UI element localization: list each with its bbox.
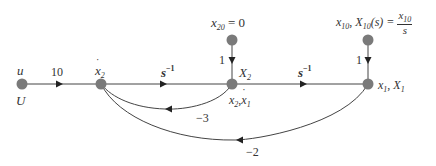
node-u: [17, 79, 28, 90]
arrow-x2dot-to-X2: [160, 81, 167, 88]
gain-minus-3: −3: [196, 112, 209, 124]
gain-minus-2: −2: [246, 146, 259, 158]
arrow-feedback-minus3: [165, 106, 172, 113]
label-x2dot: x·2: [95, 64, 105, 80]
arrow-feedback-minus2: [236, 137, 243, 144]
label-U: U: [16, 94, 25, 107]
gain-s-inverse-1: s−1: [161, 65, 175, 79]
gain-10: 10: [51, 66, 63, 78]
gain-1-x20: 1: [219, 54, 225, 66]
arrow-x20-to-X2: [229, 57, 236, 64]
gain-1-x10: 1: [356, 54, 362, 66]
node-x10: [363, 35, 374, 46]
node-x2dot: [96, 79, 107, 90]
arrow-X2-to-X1: [300, 81, 307, 88]
label-u: u: [17, 64, 24, 77]
label-x10-initial: x10, X10(s) = x10s: [336, 10, 412, 36]
node-X1: [363, 79, 374, 90]
fraction-x10-over-s: x10s: [397, 10, 412, 36]
node-x20: [227, 35, 238, 46]
label-X2: X2: [239, 66, 251, 82]
arrow-u-to-x2dot: [56, 81, 63, 88]
gain-s-inverse-2: s−1: [298, 65, 312, 79]
label-x2-x1dot: x2,x·1: [229, 94, 251, 109]
arrow-x10-to-X1: [365, 57, 372, 64]
node-X2: [227, 79, 238, 90]
edge-feedback-X1-to-x2dot: [101, 84, 368, 140]
label-x20-initial: x20 = 0: [211, 16, 245, 32]
edge-feedback-X2-to-x2dot: [101, 84, 232, 109]
label-x1-X1: x1, X1: [378, 79, 405, 94]
